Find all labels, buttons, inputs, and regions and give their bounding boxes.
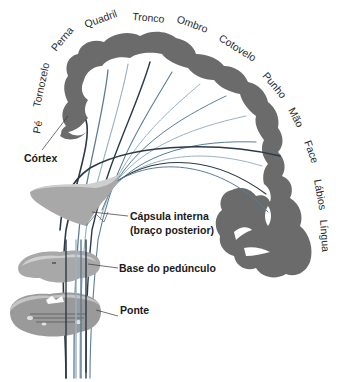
label-quadril: Quadril [83, 7, 119, 30]
label-tornozelo: Tornozelo [30, 61, 51, 108]
label-labios: Lábios [312, 178, 329, 211]
label-capsula-interna: Cápsula interna [130, 210, 209, 222]
label-pe: Pé [30, 119, 44, 134]
label-base-pedunculo: Base do pedúnculo [119, 262, 216, 274]
label-braco-posterior: (braço posterior) [130, 224, 214, 236]
label-mao: Mão [286, 105, 306, 129]
label-ombro: Ombro [175, 13, 209, 35]
corticospinal-tract-diagram: Pé Tornozelo Perna Quadril Tronco Ombro … [0, 0, 341, 382]
label-perna: Perna [48, 24, 75, 53]
label-face: Face [302, 139, 321, 165]
pons-slice [10, 293, 101, 337]
label-cortex: Córtex [24, 152, 57, 164]
label-cotovelo: Cotovelo [217, 32, 259, 64]
label-tronco: Tronco [132, 10, 165, 25]
label-ponte: Ponte [120, 304, 149, 316]
label-lingua: Língua [318, 219, 332, 252]
